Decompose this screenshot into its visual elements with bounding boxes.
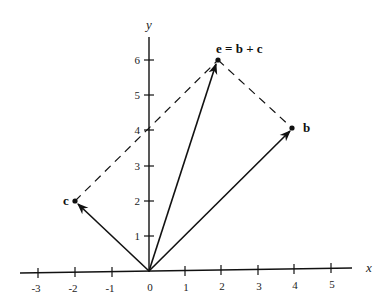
x-tick-label: 0 [147,281,153,293]
y-tick-label: 5 [135,89,141,101]
x-tick-label: -3 [31,282,41,294]
x-tick-label: 1 [183,281,189,293]
x-tick-label: -1 [105,282,114,294]
y-tick-label: 4 [135,124,141,136]
x-axis-label: x [365,260,372,275]
point-e [215,57,220,62]
x-tick-label: 5 [329,278,335,290]
diagram-canvas: -3 -2 -1 0 1 2 3 4 5 x 1 2 3 4 [0,0,389,305]
point-c [72,198,77,203]
y-axis: 1 2 3 4 5 6 y [135,17,155,272]
y-axis-label: y [144,17,152,32]
parallelogram-dashes [75,60,292,201]
x-tick-label: -2 [68,282,77,294]
y-tick-label: 6 [135,54,141,66]
x-tick-label: 2 [219,280,225,292]
x-axis: -3 -2 -1 0 1 2 3 4 5 x [20,260,372,294]
vector-e: e = b + c [149,41,263,271]
vector-c-label: c [63,193,69,208]
y-tick-label: 2 [135,195,141,207]
point-b [289,125,294,130]
x-ticks [38,263,331,278]
vector-b-label: b [303,120,310,135]
x-tick-label: 3 [256,280,262,292]
y-tick-label: 1 [135,230,141,242]
vector-e-label: e = b + c [216,41,263,56]
vector-diagram: -3 -2 -1 0 1 2 3 4 5 x 1 2 3 4 [0,0,389,305]
x-tick-label: 4 [292,279,298,291]
y-tick-label: 3 [135,160,141,172]
